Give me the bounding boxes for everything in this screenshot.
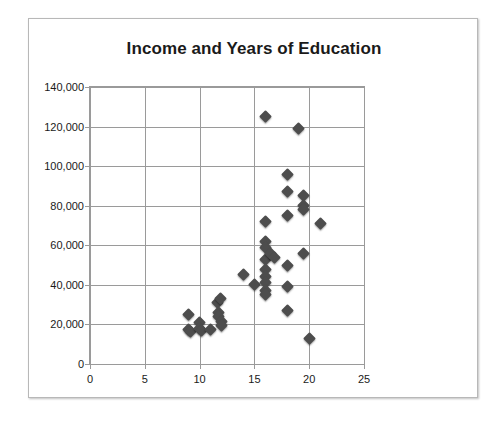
- y-axis-tick-label: 80,000: [50, 200, 84, 212]
- scatter-point: [292, 122, 305, 135]
- gridline-horizontal: [90, 364, 364, 365]
- gridline-horizontal: [90, 285, 364, 286]
- tick-mark-x: [364, 364, 365, 369]
- tick-mark-y: [85, 206, 90, 207]
- gridline-horizontal: [90, 127, 364, 128]
- scatter-point: [314, 217, 327, 230]
- gridline-vertical: [309, 87, 310, 364]
- x-axis-tick-label: 5: [142, 373, 148, 385]
- y-axis-tick-label: 60,000: [50, 239, 84, 251]
- gridline-vertical: [145, 87, 146, 364]
- scatter-point: [281, 259, 294, 272]
- tick-mark-x: [200, 364, 201, 369]
- gridline-vertical: [364, 87, 365, 364]
- tick-mark-y: [85, 245, 90, 246]
- scatter-point: [281, 209, 294, 222]
- gridline-horizontal: [90, 245, 364, 246]
- scatter-point: [259, 215, 272, 228]
- scatter-point: [259, 110, 272, 123]
- tick-mark-y: [85, 285, 90, 286]
- scatter-point: [303, 332, 316, 345]
- y-axis-tick-label: 100,000: [44, 160, 84, 172]
- y-axis-tick-label: 0: [78, 358, 84, 370]
- tick-mark-y: [85, 166, 90, 167]
- chart-container: Income and Years of Education 020,00040,…: [28, 18, 478, 398]
- scatter-point: [281, 185, 294, 198]
- x-axis-tick-label: 0: [87, 373, 93, 385]
- scatter-point: [281, 304, 294, 317]
- x-axis-tick-label: 15: [248, 373, 260, 385]
- x-axis-tick-label: 20: [303, 373, 315, 385]
- y-axis-tick-label: 140,000: [44, 81, 84, 93]
- scatter-point: [281, 280, 294, 293]
- gridline-horizontal: [90, 87, 364, 88]
- plot-area: 020,00040,00060,00080,000100,000120,0001…: [89, 86, 365, 365]
- y-axis-tick-label: 120,000: [44, 121, 84, 133]
- scatter-point: [297, 247, 310, 260]
- x-axis-tick-label: 10: [193, 373, 205, 385]
- chart-title: Income and Years of Education: [29, 39, 479, 59]
- x-axis-tick-label: 25: [358, 373, 370, 385]
- tick-mark-y: [85, 87, 90, 88]
- gridline-vertical: [254, 87, 255, 364]
- tick-mark-x: [90, 364, 91, 369]
- gridline-horizontal: [90, 206, 364, 207]
- tick-mark-x: [145, 364, 146, 369]
- scatter-point: [237, 269, 250, 282]
- tick-mark-y: [85, 324, 90, 325]
- y-axis-tick-label: 20,000: [50, 318, 84, 330]
- y-axis-tick-label: 40,000: [50, 279, 84, 291]
- tick-mark-y: [85, 127, 90, 128]
- tick-mark-x: [309, 364, 310, 369]
- scatter-point: [281, 168, 294, 181]
- scatter-point: [182, 308, 195, 321]
- gridline-vertical: [90, 87, 91, 364]
- tick-mark-x: [254, 364, 255, 369]
- gridline-horizontal: [90, 166, 364, 167]
